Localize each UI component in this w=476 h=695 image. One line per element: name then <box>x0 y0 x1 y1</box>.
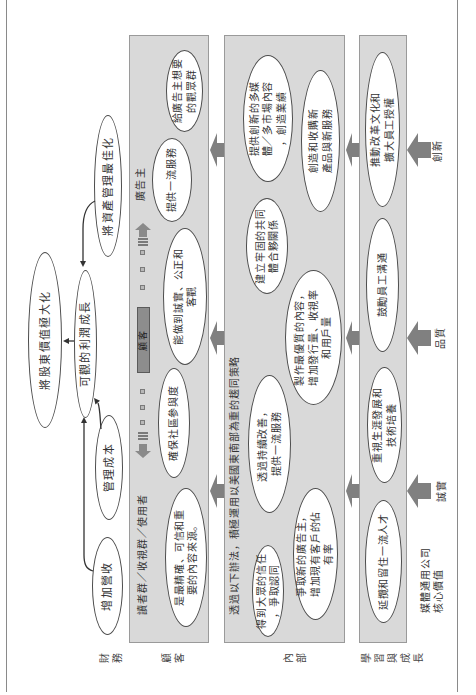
objective-culture: 推動改革文化和 擴大員工授權 <box>365 52 400 207</box>
dash-bar <box>138 245 148 247</box>
segment-advertisers-label: 廣告主 <box>135 167 147 202</box>
objective-talent: 延攬和留住一流人才 <box>365 500 402 623</box>
objective-community: 確保社區參與度 <box>158 368 190 478</box>
core-values-title-line2: 核心價值 <box>433 569 445 613</box>
link-costs-to-profit <box>98 403 101 429</box>
objective-continuous-improvement: 透過持續改善， 提供一流服務 <box>248 375 291 513</box>
dash-bar <box>138 242 148 244</box>
arrow-up-icon <box>210 321 224 355</box>
dot-square <box>140 420 145 425</box>
dot-square <box>140 285 145 290</box>
arrow-up-icon <box>346 321 359 355</box>
dash-bar <box>138 239 148 241</box>
segment-readers-label: 讀者群／收視群／使用者 <box>137 494 149 615</box>
arrowhead-icon <box>80 261 86 267</box>
internal-strategy-header: 透過以下辦法，積極運用以美國東南部為重的趨同策略 <box>229 356 241 615</box>
core-value-innovation: 創新 <box>432 135 444 167</box>
objective-audience: 給廣告主想要 的觀眾群 <box>166 50 203 132</box>
objective-service: 提供一流服務 <box>152 138 192 222</box>
arrow-up-icon <box>346 133 359 167</box>
objective-communication: 鼓勵員工溝通 <box>366 218 399 352</box>
link-assets-to-profit <box>83 201 95 261</box>
objective-new-products: 創造和收購新 產品與新服務 <box>301 70 340 212</box>
arrowhead-icon <box>94 398 100 405</box>
dot-square <box>140 389 145 394</box>
objective-career: 重視生涯發展和 技術培養 <box>367 367 402 483</box>
objective-partnerships: 建立牢固的共同 體合夥關係 <box>246 198 288 294</box>
link-revenue-to-profit <box>84 423 93 571</box>
core-values-title-line1: 媒體通用公司 <box>420 547 432 613</box>
arrow-up-icon <box>407 321 431 355</box>
arrow-up-icon <box>407 133 431 167</box>
arrow-up-icon <box>210 474 224 508</box>
dot-square <box>140 250 145 255</box>
dash-bar <box>138 433 148 435</box>
core-value-quality: 品質 <box>435 322 447 354</box>
arrow-up-icon <box>346 474 359 508</box>
arrowhead-icon <box>81 417 87 423</box>
dash-bar <box>138 439 148 441</box>
objective-quality-content: 製作最優質的內容， 增加發行量、收視率 和用戶量 <box>285 270 342 405</box>
arrowhead-icon <box>63 338 69 344</box>
objective-public-trust: 得到大眾的信任 ，爭取認同 <box>252 545 284 637</box>
arrow-left-icon <box>135 444 151 458</box>
objective-new-advertisers: 爭取新的廣告主， 增加現有客戶的佔 有率 <box>293 488 338 620</box>
arrow-up-icon <box>210 133 224 167</box>
dot-square <box>140 267 145 272</box>
strategy-map-rotated: 財務 顧客 內部 學習與成長 將股東價值極大化 可觀的利潤成長 將資產管理最佳化… <box>0 0 476 695</box>
core-value-integrity: 誠實 <box>436 475 448 507</box>
arrow-right-icon <box>135 223 151 237</box>
dash-bar <box>138 436 148 438</box>
objective-multimedia-content: 提供創新的多媒 體／多市場內容 ，創造業績 <box>243 55 293 182</box>
objective-honest-fair: 能做到誠實、公正和 客觀 <box>163 228 207 365</box>
arrow-up-icon <box>407 474 431 508</box>
dot-square <box>140 405 145 410</box>
customer-spectrum-label: 顧客 <box>137 307 150 373</box>
objective-trusted-source: 是最精確、可信和重 要的內容來源。 <box>165 488 207 627</box>
strategy-map-figure: 財務 顧客 內部 學習與成長 將股東價值極大化 可觀的利潤成長 將資產管理最佳化… <box>0 0 476 695</box>
